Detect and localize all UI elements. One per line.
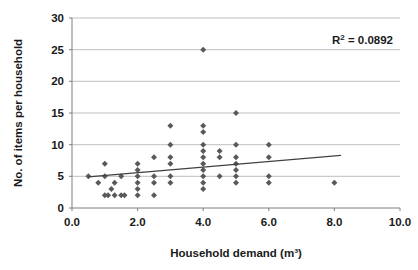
x-tick-label: 4.0 xyxy=(195,216,211,228)
y-tick-label: 15 xyxy=(51,107,64,119)
x-tick-label: 0.0 xyxy=(64,216,80,228)
y-axis-title: No. of items per household xyxy=(12,39,24,187)
x-tick-label: 10.0 xyxy=(389,216,411,228)
x-tick-label: 2.0 xyxy=(130,216,146,228)
y-tick-label: 0 xyxy=(58,202,64,214)
chart-canvas: 051015202530 0.02.04.06.08.010.0 R2 = 0.… xyxy=(0,0,418,270)
x-tick-label: 8.0 xyxy=(326,216,342,228)
y-tick-label: 5 xyxy=(58,170,65,182)
x-tick-label: 6.0 xyxy=(261,216,277,228)
y-tick-label: 25 xyxy=(51,44,64,56)
y-tick-label: 10 xyxy=(51,139,64,151)
y-tick-label: 30 xyxy=(51,12,64,24)
scatter-chart-figure: 051015202530 0.02.04.06.08.010.0 R2 = 0.… xyxy=(0,0,418,270)
x-axis-title: Household demand (m³) xyxy=(170,247,302,259)
y-tick-label: 20 xyxy=(51,75,64,87)
